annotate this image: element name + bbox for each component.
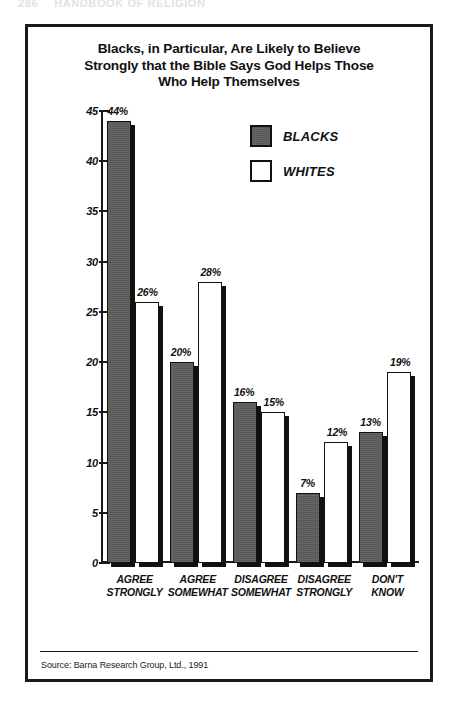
y-axis-tick-label: 30 [86, 256, 98, 268]
running-head-text: HANDBOOK OF RELIGION [54, 0, 205, 9]
bar-blacks-2: 20% [170, 362, 194, 563]
bar-whites-5: 19% [387, 372, 411, 563]
bar-body [324, 442, 348, 563]
bar-value-label: 12% [327, 426, 347, 438]
y-axis-tick-label: 45 [86, 105, 98, 117]
x-axis-label-line: KNOW [356, 586, 419, 599]
bar-body [296, 493, 320, 563]
page-running-head: 286HANDBOOK OF RELIGION [0, 0, 460, 13]
bar-whites-2: 28% [198, 282, 222, 563]
y-axis-tick-label: 40 [86, 155, 98, 167]
bar-body [198, 282, 222, 563]
legend-swatch-blacks [250, 125, 272, 147]
bar-blacks-1: 44% [107, 121, 131, 563]
bar-body [261, 412, 285, 563]
bar-group: 20%28% [166, 111, 229, 563]
bar-value-label: 28% [200, 266, 220, 278]
legend-swatch-whites [250, 160, 272, 182]
legend-item-whites: WHITES [250, 160, 400, 182]
x-axis-label-line: DON'T [356, 573, 419, 586]
chart-title: Blacks, in Particular, Are Likely to Bel… [44, 41, 414, 91]
x-axis-label: DISAGREESOMEWHAT [229, 573, 292, 599]
bar-value-label: 20% [171, 346, 191, 358]
bar-value-label: 7% [300, 477, 315, 489]
x-axis-labels: AGREESTRONGLYAGREESOMEWHATDISAGREESOMEWH… [103, 573, 419, 619]
bar-blacks-5: 13% [359, 432, 383, 563]
page-number: 286 [18, 0, 38, 9]
y-axis-tick-label: 10 [86, 457, 98, 469]
y-axis-tick-label: 25 [86, 306, 98, 318]
x-axis-label: AGREESTRONGLY [103, 573, 166, 599]
chart-legend: BLACKSWHITES [250, 125, 400, 195]
bar-body [387, 372, 411, 563]
legend-item-blacks: BLACKS [250, 125, 400, 147]
bar-body [233, 402, 257, 563]
bar-value-label: 15% [264, 396, 284, 408]
y-axis-tick-label: 5 [92, 507, 98, 519]
y-axis-tick-label: 35 [86, 205, 98, 217]
chart-title-line-2: Strongly that the Bible Says God Helps T… [44, 58, 414, 75]
figure-frame: Blacks, in Particular, Are Likely to Bel… [25, 24, 433, 682]
x-axis-label-line: DISAGREE [293, 573, 356, 586]
x-axis-label-line: SOMEWHAT [229, 586, 292, 599]
chart-title-line-1: Blacks, in Particular, Are Likely to Bel… [44, 41, 414, 58]
chart-title-line-3: Who Help Themselves [44, 74, 414, 91]
bar-whites-4: 12% [324, 442, 348, 563]
bar-value-label: 26% [137, 286, 157, 298]
y-axis-tick-label: 0 [92, 557, 98, 569]
bar-body [170, 362, 194, 563]
bar-group: 44%26% [103, 111, 166, 563]
x-axis-label-line: AGREE [103, 573, 166, 586]
bar-value-label: 19% [390, 356, 410, 368]
x-axis-label: AGREESOMEWHAT [166, 573, 229, 599]
y-axis-tick-label: 15 [86, 406, 98, 418]
x-axis-label-line: AGREE [166, 573, 229, 586]
y-axis-tick-label: 20 [86, 356, 98, 368]
bar-body [107, 121, 131, 563]
x-axis-label-line: SOMEWHAT [166, 586, 229, 599]
bar-blacks-4: 7% [296, 493, 320, 563]
legend-label: BLACKS [283, 129, 338, 144]
bar-value-label: 13% [360, 416, 380, 428]
x-axis-label: DON'TKNOW [356, 573, 419, 599]
bar-value-label: 16% [234, 386, 254, 398]
x-axis-label-line: STRONGLY [293, 586, 356, 599]
bar-value-label: 44% [108, 105, 128, 117]
legend-label: WHITES [283, 164, 335, 179]
source-divider [40, 651, 418, 653]
plot-area: 051015202530354045 44%26%20%28%16%15%7%1… [28, 103, 430, 623]
bar-blacks-3: 16% [233, 402, 257, 563]
bar-whites-1: 26% [135, 302, 159, 563]
source-note: Source: Barna Research Group, Ltd., 1991 [41, 660, 208, 670]
x-axis-label-line: STRONGLY [103, 586, 166, 599]
x-axis-label: DISAGREESTRONGLY [293, 573, 356, 599]
x-axis-label-line: DISAGREE [229, 573, 292, 586]
bar-body [359, 432, 383, 563]
bar-whites-3: 15% [261, 412, 285, 563]
bar-body [135, 302, 159, 563]
